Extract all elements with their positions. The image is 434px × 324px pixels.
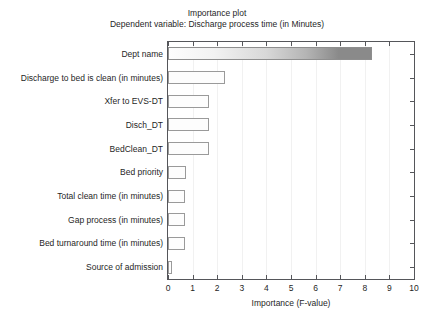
y-axis-tick-right (410, 267, 414, 268)
y-axis-tick-right (410, 54, 414, 55)
x-axis-tick-top (217, 42, 218, 46)
x-axis-tick-top (266, 42, 267, 46)
chart-subtitle: Dependent variable: Discharge process ti… (0, 19, 434, 30)
bar (168, 261, 172, 274)
gridline (266, 42, 267, 279)
y-axis-tick-right (410, 78, 414, 79)
x-tick-label: 0 (155, 283, 181, 293)
gridline (365, 42, 366, 279)
x-axis-tick-top (291, 42, 292, 46)
x-axis-tick-top (365, 42, 366, 46)
bar (168, 47, 372, 60)
gridline (389, 42, 390, 279)
bar (168, 190, 185, 203)
category-label: Dept name (0, 49, 163, 59)
x-axis-tick (168, 275, 169, 279)
bar (168, 213, 185, 226)
y-axis-tick-right (410, 243, 414, 244)
category-label: Disch_DT (0, 120, 163, 130)
x-tick-label: 4 (253, 283, 279, 293)
bar (168, 142, 209, 155)
bar (168, 237, 185, 250)
x-tick-label: 7 (327, 283, 353, 293)
y-axis-tick-right (410, 172, 414, 173)
x-tick-label: 2 (204, 283, 230, 293)
x-axis-tick (193, 275, 194, 279)
y-axis-tick-right (410, 196, 414, 197)
x-axis-tick (316, 275, 317, 279)
y-axis-tick-right (410, 101, 414, 102)
x-tick-label: 10 (401, 283, 427, 293)
bar (168, 95, 209, 108)
category-label: Gap process (in minutes) (0, 215, 163, 225)
x-tick-label: 8 (352, 283, 378, 293)
category-label: Source of admission (0, 262, 163, 272)
x-tick-label: 1 (180, 283, 206, 293)
x-tick-label: 9 (376, 283, 402, 293)
x-axis-tick (291, 275, 292, 279)
x-axis-tick (365, 275, 366, 279)
x-axis-tick-top (414, 42, 415, 46)
category-label: Xfer to EVS-DT (0, 96, 163, 106)
gridline (316, 42, 317, 279)
x-axis-tick (340, 275, 341, 279)
x-axis-title: Importance (F-value) (167, 298, 415, 308)
x-axis-tick-top (316, 42, 317, 46)
x-tick-label: 6 (303, 283, 329, 293)
chart-title-block: Importance plot Dependent variable: Disc… (0, 8, 434, 30)
gridline (242, 42, 243, 279)
x-axis-tick (242, 275, 243, 279)
x-axis-tick (217, 275, 218, 279)
plot-inner (168, 42, 414, 279)
bar (168, 166, 186, 179)
bar (168, 71, 225, 84)
x-axis-tick-top (168, 42, 169, 46)
x-tick-label: 3 (229, 283, 255, 293)
category-label: Bed priority (0, 167, 163, 177)
y-axis-tick-right (410, 125, 414, 126)
category-label: Total clean time (in minutes) (0, 191, 163, 201)
x-axis-tick-top (389, 42, 390, 46)
plot-area (167, 41, 415, 280)
category-label: BedClean_DT (0, 144, 163, 154)
y-axis-tick-right (410, 220, 414, 221)
category-label: Bed turnaround time (in minutes) (0, 238, 163, 248)
x-tick-label: 5 (278, 283, 304, 293)
gridline (340, 42, 341, 279)
gridline (291, 42, 292, 279)
importance-plot-chart: Importance plot Dependent variable: Disc… (0, 0, 434, 324)
x-axis-tick (389, 275, 390, 279)
category-label: Discharge to bed is clean (in minutes) (0, 73, 163, 83)
bar (168, 118, 209, 131)
x-axis-tick (266, 275, 267, 279)
x-axis-tick-top (193, 42, 194, 46)
x-axis-tick (414, 275, 415, 279)
chart-title: Importance plot (0, 8, 434, 19)
x-axis-tick-top (242, 42, 243, 46)
y-axis-tick-right (410, 149, 414, 150)
x-axis-tick-top (340, 42, 341, 46)
